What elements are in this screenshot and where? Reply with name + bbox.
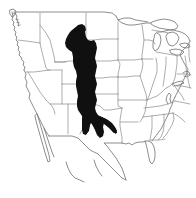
range-map-figure: Distribution range map of the contiguous… <box>0 0 196 198</box>
us-map-svg <box>0 0 196 198</box>
